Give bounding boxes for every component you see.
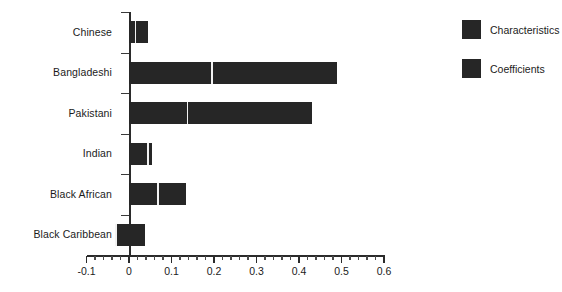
bar-bangladeshi	[129, 62, 337, 84]
x-axis-minor-tick	[264, 256, 265, 260]
x-axis-minor-tick	[120, 256, 121, 260]
plot-area	[129, 12, 384, 255]
x-axis-tick	[86, 256, 87, 263]
y-axis-label: Chinese	[73, 27, 112, 38]
x-axis-minor-tick	[111, 256, 112, 260]
legend-item: Coefficients	[462, 59, 559, 78]
x-axis-tick	[171, 256, 172, 263]
legend-swatch-icon	[462, 20, 481, 39]
x-axis-minor-tick	[222, 256, 223, 260]
x-axis-minor-tick	[324, 256, 325, 260]
y-axis-tick	[121, 215, 129, 216]
x-axis-minor-tick	[247, 256, 248, 260]
x-axis-minor-tick	[103, 256, 104, 260]
x-axis-minor-tick	[290, 256, 291, 260]
legend-label: Characteristics	[490, 24, 559, 36]
x-axis-minor-tick	[375, 256, 376, 260]
bar-segment-divider	[115, 224, 116, 246]
x-axis-minor-tick	[188, 256, 189, 260]
bar-indian	[129, 143, 152, 165]
x-axis-tick-label: 0.6	[377, 265, 392, 277]
y-axis-tick	[121, 134, 129, 135]
x-axis-minor-tick	[239, 256, 240, 260]
x-axis-minor-tick	[230, 256, 231, 260]
x-axis-tick-label: -0.1	[77, 265, 95, 277]
legend-label: Coefficients	[490, 63, 545, 75]
x-axis-tick-label: 0.2	[207, 265, 222, 277]
x-axis-minor-tick	[94, 256, 95, 260]
y-axis-category-labels: ChineseBangladeshiPakistaniIndianBlack A…	[0, 0, 112, 292]
x-axis-minor-tick	[162, 256, 163, 260]
x-axis-minor-tick	[205, 256, 206, 260]
y-axis-label: Indian	[83, 148, 112, 159]
x-axis-minor-tick	[349, 256, 350, 260]
bar-chinese	[129, 21, 148, 43]
chart-legend: CharacteristicsCoefficients	[462, 20, 559, 98]
x-axis-minor-tick	[154, 256, 155, 260]
x-axis-minor-tick	[273, 256, 274, 260]
bar-pakistani	[129, 102, 312, 124]
y-axis-label: Black Caribbean	[33, 229, 112, 240]
bar-black-caribbean	[116, 224, 145, 246]
x-axis-tick	[341, 256, 342, 263]
x-axis-tick	[128, 256, 129, 263]
x-axis-minor-tick	[366, 256, 367, 260]
x-axis-minor-tick	[137, 256, 138, 260]
x-axis-tick-label: 0.4	[292, 265, 307, 277]
x-axis-tick	[213, 256, 214, 263]
bar-segment-divider	[187, 102, 188, 124]
legend-item: Characteristics	[462, 20, 559, 39]
y-axis-label: Bangladeshi	[53, 67, 112, 78]
bar-segment-divider	[147, 143, 148, 165]
y-axis-tick	[121, 93, 129, 94]
x-axis-minor-tick	[307, 256, 308, 260]
y-axis-tick	[121, 12, 129, 13]
x-axis-tick-label: 0.1	[164, 265, 179, 277]
y-axis-label: Black African	[50, 189, 112, 200]
x-axis-minor-tick	[145, 256, 146, 260]
x-axis-minor-tick	[358, 256, 359, 260]
bar-segment-divider	[135, 21, 136, 43]
x-axis-tick	[256, 256, 257, 263]
x-axis-minor-tick	[196, 256, 197, 260]
x-axis-tick-label: 0.3	[249, 265, 264, 277]
bar-chart: ChineseBangladeshiPakistaniIndianBlack A…	[0, 0, 562, 292]
y-axis-tick	[121, 53, 129, 54]
y-axis-label: Pakistani	[68, 108, 112, 119]
x-axis-tick-label: 0	[126, 265, 132, 277]
legend-swatch-icon	[462, 59, 481, 78]
x-axis-tick-label: 0.5	[334, 265, 349, 277]
bar-segment-divider	[211, 62, 212, 84]
x-axis-minor-tick	[179, 256, 180, 260]
x-axis-minor-tick	[281, 256, 282, 260]
x-axis-minor-tick	[332, 256, 333, 260]
x-axis-minor-tick	[315, 256, 316, 260]
x-axis-tick	[383, 256, 384, 263]
x-axis-tick	[298, 256, 299, 263]
bar-segment-divider	[157, 183, 158, 205]
y-axis-tick	[121, 174, 129, 175]
